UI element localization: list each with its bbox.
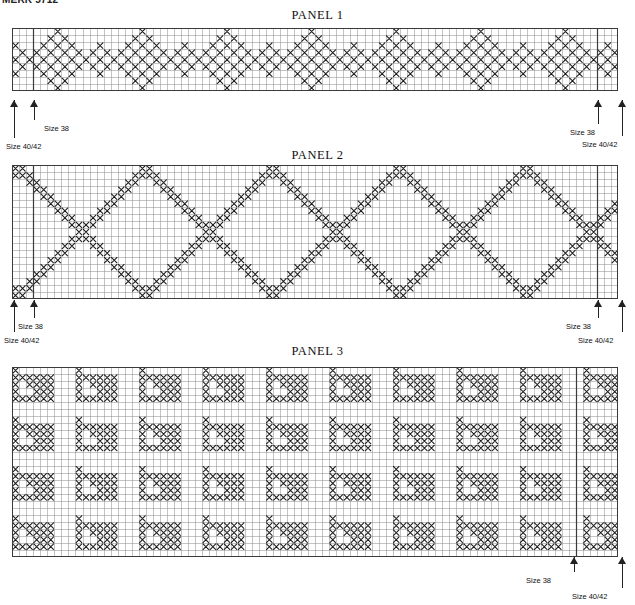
panel-2-size-38-left-label: Size 38	[18, 322, 43, 331]
panel-1-title: PANEL 1	[0, 8, 635, 23]
panel-2-size-38-right-label: Size 38	[566, 322, 591, 331]
panel-1-size-38-right-arrow-head	[594, 100, 602, 107]
panel-3-title: PANEL 3	[0, 344, 635, 359]
chart-page: MERK 5712 PANEL 1 PANEL 2 PANEL 3 Size 3…	[0, 0, 635, 605]
panel-1-chart	[12, 28, 618, 91]
panel-2-chart	[12, 165, 618, 299]
panel-1-size-4042-right-arrow-head	[618, 100, 626, 107]
panel-1-size-4042-left-label: Size 40/42	[6, 142, 41, 151]
panel-3-chart	[12, 367, 618, 557]
panel-1-size-38-right-label: Size 38	[570, 128, 595, 137]
panel-1-size-4042-right-label: Size 40/42	[582, 140, 617, 149]
panel-1-size-4042-left-arrow-head	[10, 100, 18, 107]
panel-2-size-4042-left-arrow-head	[10, 300, 18, 307]
panel-2-size-4042-left-label: Size 40/42	[4, 336, 39, 345]
panel-3-size-4042-right-label: Size 40/42	[572, 592, 607, 601]
panel-3-size-38-right-arrow-head	[570, 557, 578, 564]
panel-2-size-38-left-arrow-head	[30, 300, 38, 307]
document-header: MERK 5712	[2, 0, 58, 5]
panel-3-size-38-right-label: Size 38	[526, 576, 551, 585]
panel-2-size-38-right-arrow-head	[594, 300, 602, 307]
panel-2-size-4042-right-label: Size 40/42	[578, 336, 613, 345]
panel-1-size-38-left-label: Size 38	[44, 124, 69, 133]
panel-3-size-4042-right-arrow-head	[618, 557, 626, 564]
panel-2-title: PANEL 2	[0, 148, 635, 163]
panel-2-size-4042-right-arrow-head	[618, 300, 626, 307]
panel-1-size-38-left-arrow-head	[30, 100, 38, 107]
